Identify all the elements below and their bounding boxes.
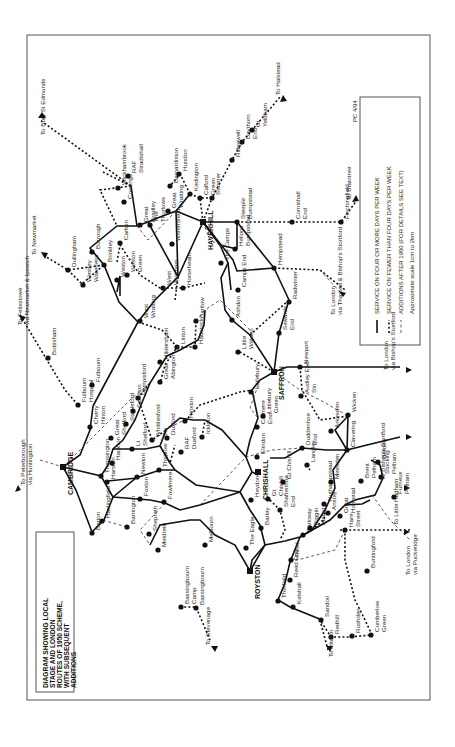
stop-marker-icon [260,413,265,418]
stop-label: Wicken [350,391,357,412]
stop: Barrington [124,495,136,530]
stop-marker-icon [99,518,104,523]
stop-marker-icon [192,344,197,349]
stop-label: Waterless [92,255,99,282]
stop-marker-icon [328,428,333,433]
stop-marker-icon [155,547,160,552]
stop: BaythornEnd [239,114,257,145]
stop-marker-icon [248,497,253,502]
stop-marker-icon [265,496,270,501]
destination-label: To Newmarket [30,215,37,255]
stop-label: Bumpstead [246,187,253,219]
stop-label: Newport [302,341,309,364]
town-marker-icon [60,464,66,470]
stop-label: Rushden [354,608,361,633]
stop: Foxton [137,477,149,502]
stop-label: Hundon [181,149,188,171]
stop-label: Pelham [370,457,377,478]
stop-marker-icon [101,262,106,267]
stop-label: Sturmer [214,173,221,195]
stop: DuddenhoeEnd [299,412,317,450]
town-marker-icon [255,469,261,475]
stop-label: Hildersham [162,328,169,359]
stop-marker-icon [114,277,119,282]
stop: Dullingham [65,236,77,273]
stop-label: Anstey [330,490,337,510]
stop-label: Hadstock [197,317,204,344]
stop-label: Stn [310,383,317,393]
stop-marker-icon [75,402,80,407]
stop-label: Redhill [333,615,340,634]
stop-label: Brinkley [106,239,113,262]
stop-label: The Eagle [248,516,255,545]
stop-label: Hinton [99,406,106,424]
stop-marker-icon [271,265,276,270]
stop: Camps End [235,254,247,292]
stop-marker-icon [321,501,326,506]
stop-marker-icon [176,171,181,176]
stop-label: Melbourn [207,516,214,542]
stop: LittleWalden [235,328,253,355]
stop-label: Green [380,614,387,632]
stop-marker-icon [234,219,239,224]
stop: Fowlmere [161,471,173,504]
stop-label: Buntingford [369,536,376,568]
stop: Ickleton [199,412,211,439]
town-royston: ROYSTON [247,565,261,600]
stop: LtShelford [129,422,147,451]
stop: Kedington [187,163,199,197]
stop-marker-icon [130,408,135,413]
stop: Fulbourn [89,357,101,388]
stop: Ashdon [229,295,241,322]
stop-label: Sandon [323,595,330,617]
stop-marker-icon [325,510,330,515]
stop-marker-icon [286,299,291,304]
stop-marker-icon [157,379,162,384]
stop-label: Barrington [129,495,136,524]
stop-marker-icon [298,393,303,398]
title-line-5: ADDITIONS [70,651,77,688]
stop-label: Duxford [190,427,197,449]
stop: CornishallEnd [289,191,307,224]
stop-marker-icon [229,317,234,322]
stop-marker-icon [45,355,50,360]
stop-marker-icon [243,545,248,550]
stop-marker-icon [258,525,263,530]
reference-code: PC 4/94 [352,100,358,122]
stop-label: End [289,495,296,507]
stop-label: Wickhambrook [120,143,127,185]
stop-label: Withersfield [174,208,181,241]
stop-label: Bottisham [50,327,57,355]
stop-marker-icon [364,568,369,573]
stop-marker-icon [104,479,109,484]
stop-label: Shepreth [151,505,158,531]
arrow-icon [15,485,21,492]
town-marker-icon [271,369,277,375]
stop-marker-icon [87,424,92,429]
stop: Elmdon [254,432,266,459]
stop-marker-icon [169,241,174,246]
stop-label: Elmdon [259,432,266,454]
stop-marker-icon [249,127,254,132]
stop-marker-icon [167,183,172,188]
stop-marker-icon [235,349,240,354]
stop-marker-icon [89,382,94,387]
stop-label: End [266,412,273,424]
stop: Horseheath [180,252,192,290]
stop-marker-icon [161,499,166,504]
stop-marker-icon [137,496,142,501]
stop-marker-icon [328,479,333,484]
stop: CumberlowGreen [368,600,386,637]
stop: Kelshall [290,582,302,609]
stop-label: Therfield [280,573,287,598]
stop-marker-icon [276,330,281,335]
stop: Haslingfield [99,485,111,523]
stop-marker-icon [115,185,120,190]
stop-label: Wratting [149,295,156,318]
stop: Therfield [275,573,287,603]
destination-label: via Puckeridge [411,534,418,575]
stop: Littlebury [248,363,260,395]
stop-marker-icon [300,532,305,537]
stop: Ridgewell [229,130,241,162]
stop-marker-icon [146,531,151,536]
